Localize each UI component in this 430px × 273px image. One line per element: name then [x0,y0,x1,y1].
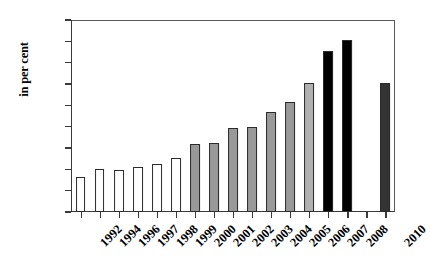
x-tick-mark [157,212,158,218]
x-tick-mark [328,212,329,218]
bar [114,170,124,212]
x-tick-label: 2010 [402,222,430,250]
x-tick-mark [233,212,234,218]
bar-slot [243,20,262,212]
bar [209,143,219,212]
bar [304,83,314,212]
x-tick-mark [100,212,101,218]
bar-slot [109,20,128,212]
x-tick-mark [309,212,310,218]
x-tick-mark [176,212,177,218]
x-tick-mark [252,212,253,218]
bar-slot [376,20,395,212]
x-tick-mark [366,212,367,218]
x-tick-mark [138,212,139,218]
bar-slot [300,20,319,212]
bar [152,164,162,212]
bar-slot [338,20,357,212]
bar-slot [204,20,223,212]
x-tick-mark [271,212,272,218]
bar [76,177,86,212]
bar [247,127,257,212]
bar [323,51,333,212]
bar [228,128,238,212]
bar [285,102,295,212]
bar [266,112,276,212]
bar [133,167,143,212]
bar [342,40,352,212]
bar-slot [166,20,185,212]
x-tick-mark [385,212,386,218]
x-tick-mark [214,212,215,218]
x-tick-mark [81,212,82,218]
bar [190,144,200,212]
x-tick-mark [195,212,196,218]
x-tick-mark [347,212,348,218]
x-tick-mark [290,212,291,218]
bar-slot [223,20,242,212]
bars-layer [71,20,395,212]
bar-slot [262,20,281,212]
bar-slot [319,20,338,212]
bar-slot [71,20,90,212]
bar-slot [90,20,109,212]
bar [381,83,391,212]
bar-slot [281,20,300,212]
bar [171,158,181,212]
x-tick-label: 2008 [364,222,392,250]
y-axis-title: in per cent [17,10,32,130]
bar-slot [185,20,204,212]
bar [95,169,105,212]
bar-slot [128,20,147,212]
x-tick-mark [119,212,120,218]
bar-slot [147,20,166,212]
